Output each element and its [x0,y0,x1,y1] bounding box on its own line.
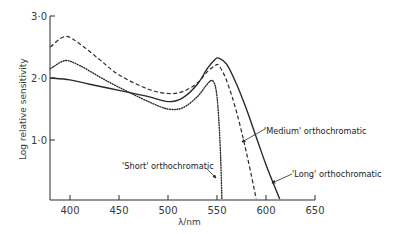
annotation-long: 'Long' orthochromatic [292,169,382,179]
axes: 4004505005506006501·02·03·0 [31,11,324,217]
y-tick-label: 2·0 [31,73,47,84]
x-tick-label: 500 [158,205,177,216]
series-dashed-line [50,36,256,198]
x-tick-label: 650 [305,205,324,216]
x-tick-label: 450 [109,205,128,216]
y-tick-label: 3·0 [31,11,47,22]
annotation-short: 'Short' orthochromatic [122,161,214,171]
y-tick-label: 1·0 [31,135,47,146]
series-group [50,36,279,198]
x-tick-label: 600 [256,205,275,216]
leader-long-arrow-icon [272,174,292,183]
annotations: 'Medium' orthochromatic 'Long' orthochro… [122,126,382,183]
x-tick-label: 550 [207,205,226,216]
y-axis-label: Log relative sensitivity [18,58,28,160]
sensitivity-chart: 4004505005506006501·02·03·0 'Medium' ort… [0,0,401,234]
series-solid-line [50,58,279,199]
x-tick-label: 400 [60,205,79,216]
x-axis-label: λ/nm [178,217,201,227]
annotation-medium: 'Medium' orthochromatic [264,126,367,136]
